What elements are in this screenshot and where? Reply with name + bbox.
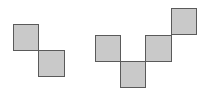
square [120,61,146,88]
square [38,50,65,77]
square [171,8,197,35]
polyomino-figure [0,0,208,95]
square [95,35,121,62]
square [13,24,39,51]
square [145,35,172,62]
